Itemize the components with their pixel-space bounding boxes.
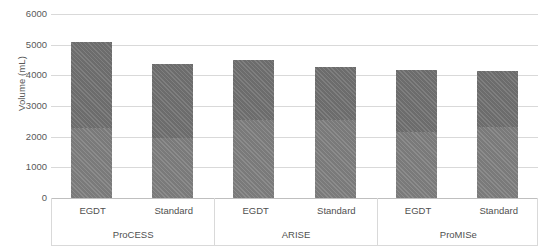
bar-promise-egdt[interactable] (396, 70, 437, 198)
bars-layer (51, 14, 538, 198)
bar-promise-standard[interactable] (477, 71, 518, 198)
category-arm-label: Standard (458, 198, 539, 222)
category-group-label: ProMISe (378, 222, 539, 246)
category-group-process: EGDTStandardProCESS (52, 198, 214, 245)
category-arm-row: EGDTStandard (215, 198, 376, 222)
category-arm-label: EGDT (215, 198, 296, 222)
bar-segment-upper (71, 42, 112, 128)
bar-segment-upper (233, 60, 274, 120)
y-tick-label: 2000 (3, 132, 47, 142)
category-arm-label: Standard (133, 198, 214, 222)
y-tick-label: 5000 (3, 40, 47, 50)
bar-segment-upper (315, 67, 356, 120)
category-group-promise: EGDTStandardProMISe (377, 198, 539, 245)
bar-segment-upper (477, 71, 518, 127)
bar-segment-lower (152, 138, 193, 198)
bar-arise-standard[interactable] (315, 67, 356, 198)
y-tick-label: 1000 (3, 163, 47, 173)
bar-segment-lower (396, 132, 437, 198)
bar-segment-upper (152, 64, 193, 138)
category-arm-label: Standard (296, 198, 377, 222)
y-tick-label: 4000 (3, 71, 47, 81)
bar-process-egdt[interactable] (71, 42, 112, 198)
category-group-label: ARISE (215, 222, 376, 246)
bar-segment-lower (315, 120, 356, 198)
bar-process-standard[interactable] (152, 64, 193, 198)
category-group-label: ProCESS (52, 222, 214, 246)
y-tick-label: 3000 (3, 101, 47, 111)
bar-segment-upper (396, 70, 437, 132)
bar-segment-lower (233, 120, 274, 198)
category-group-arise: EGDTStandardARISE (214, 198, 376, 245)
category-axis-table: EGDTStandardProCESSEGDTStandardARISEEGDT… (51, 198, 538, 246)
plot-area (51, 14, 538, 198)
y-axis-tick-labels: 6000500040003000200010000 (0, 0, 47, 251)
bar-segment-lower (477, 127, 518, 198)
category-arm-row: EGDTStandard (52, 198, 214, 222)
category-arm-label: EGDT (52, 198, 133, 222)
bar-segment-lower (71, 128, 112, 198)
bar-arise-egdt[interactable] (233, 60, 274, 198)
bar-chart: Volume (mL) 6000500040003000200010000 EG… (0, 0, 549, 251)
category-arm-row: EGDTStandard (378, 198, 539, 222)
category-arm-label: EGDT (378, 198, 459, 222)
y-tick-label: 0 (3, 193, 47, 203)
y-tick-label: 6000 (3, 9, 47, 19)
